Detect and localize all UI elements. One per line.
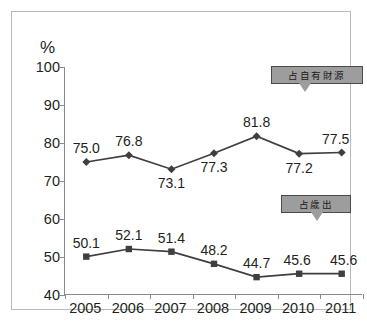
data-label: 45.6 (284, 252, 311, 268)
callout-tail (311, 212, 323, 221)
x-axis-tick-mark (278, 294, 279, 299)
data-label: 52.1 (115, 227, 142, 243)
y-axis-tick-labels: 405060708090100 (22, 12, 60, 309)
data-label: 81.8 (243, 114, 270, 130)
callout-tail (299, 83, 311, 92)
data-point-marker-diamond (338, 149, 346, 157)
chart-screenshot: % 405060708090100 75.076.873.177.381.877… (0, 0, 367, 325)
x-axis-tick-mark (193, 294, 194, 299)
x-axis-tick-label: 2008 (197, 300, 229, 316)
data-label: 45.6 (330, 252, 357, 268)
data-point-marker-square (168, 248, 174, 254)
x-axis-tick-mark (150, 294, 151, 299)
y-axis-tick-label: 100 (26, 59, 60, 75)
x-axis-tick-mark (65, 294, 66, 299)
data-point-marker-square (211, 261, 217, 267)
data-label: 77.5 (322, 131, 349, 147)
x-axis-tick-label: 2010 (282, 300, 314, 316)
x-axis-tick-mark (363, 294, 364, 299)
data-label: 44.7 (243, 255, 270, 271)
y-axis-tick-label: 60 (26, 211, 60, 227)
data-point-marker-diamond (167, 165, 175, 173)
x-axis-tick-label: 2009 (239, 300, 271, 316)
data-label: 76.8 (115, 133, 142, 149)
y-axis-tick-mark (60, 257, 65, 258)
y-axis-tick-label: 90 (26, 97, 60, 113)
x-axis-tick-mark (320, 294, 321, 299)
series-lines (65, 67, 363, 295)
data-point-marker-square (339, 271, 345, 277)
y-axis-tick-mark (60, 181, 65, 182)
data-label: 75.0 (73, 140, 100, 156)
data-point-marker-square (126, 246, 132, 252)
y-axis-tick-mark (60, 143, 65, 144)
data-point-marker-diamond (125, 151, 133, 159)
y-axis-tick-label: 70 (26, 173, 60, 189)
data-label: 77.2 (286, 160, 313, 176)
callout-own-revenue: 占自有財源 (271, 66, 363, 84)
y-axis-tick-mark (60, 219, 65, 220)
data-point-marker-diamond (253, 132, 261, 140)
data-point-marker-square (83, 253, 89, 259)
callout-expenditure: 占歲出 (281, 195, 351, 213)
x-axis-tick-labels: 2005200620072008200920102011 (64, 300, 362, 322)
x-axis-tick-mark (235, 294, 236, 299)
x-axis-tick-label: 2005 (69, 300, 101, 316)
data-point-marker-diamond (295, 150, 303, 158)
y-axis-tick-label: 40 (26, 287, 60, 303)
y-axis-tick-mark (60, 105, 65, 106)
x-axis-tick-label: 2007 (154, 300, 186, 316)
data-label: 73.1 (158, 175, 185, 191)
data-point-marker-square (296, 271, 302, 277)
y-axis-tick-label: 50 (26, 249, 60, 265)
data-point-marker-diamond (210, 149, 218, 157)
data-label: 48.2 (200, 242, 227, 258)
plot-area: 75.076.873.177.381.877.277.550.152.151.4… (64, 67, 362, 295)
data-point-marker-square (253, 274, 259, 280)
x-axis-tick-mark (108, 294, 109, 299)
chart-frame: % 405060708090100 75.076.873.177.381.877… (11, 11, 351, 310)
x-axis-tick-label: 2006 (112, 300, 144, 316)
data-label: 77.3 (200, 159, 227, 175)
data-label: 50.1 (73, 235, 100, 251)
data-point-marker-diamond (82, 158, 90, 166)
y-axis-tick-label: 80 (26, 135, 60, 151)
x-axis-tick-label: 2011 (325, 300, 356, 316)
data-label: 51.4 (158, 230, 185, 246)
y-axis-tick-mark (60, 67, 65, 68)
